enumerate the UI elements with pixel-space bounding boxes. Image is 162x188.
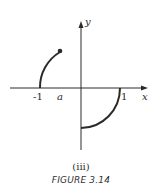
lower-right-arc xyxy=(81,88,120,128)
x-axis-label: x xyxy=(142,92,148,102)
tick-label-one: 1 xyxy=(121,92,127,102)
upper-left-arc xyxy=(40,52,60,88)
endpoint-dot xyxy=(58,49,63,54)
y-axis-label: y xyxy=(85,17,91,27)
tick-label-a: a xyxy=(57,92,63,102)
figure-caption: FIGURE 3.14 xyxy=(0,175,162,185)
tick-label-neg-one: -1 xyxy=(33,92,43,102)
x-axis-arrow-icon xyxy=(141,86,148,91)
subfigure-label: (iii) xyxy=(0,161,162,172)
graph xyxy=(0,0,162,188)
y-axis-arrow-icon xyxy=(79,21,84,28)
